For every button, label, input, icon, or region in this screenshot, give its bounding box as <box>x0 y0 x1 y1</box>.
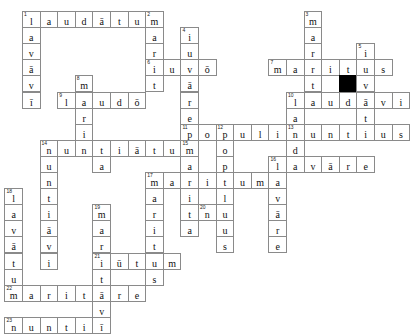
crossword-cell[interactable]: u <box>22 317 41 334</box>
crossword-cell[interactable]: i <box>180 188 199 205</box>
crossword-cell[interactable]: t <box>304 75 323 92</box>
crossword-cell[interactable]: i <box>145 220 164 237</box>
crossword-cell[interactable]: a <box>286 108 305 125</box>
crossword-cell[interactable]: u <box>163 140 182 157</box>
crossword-cell[interactable]: o <box>198 124 217 141</box>
crossword-cell[interactable]: 11p <box>180 124 199 141</box>
crossword-cell[interactable]: u <box>356 59 375 76</box>
crossword-cell[interactable]: u <box>145 253 164 270</box>
crossword-cell[interactable]: ā <box>321 156 340 173</box>
crossword-cell[interactable]: 16l <box>268 156 287 173</box>
crossword-cell[interactable]: v <box>268 188 287 205</box>
crossword-cell[interactable]: a <box>22 285 41 302</box>
crossword-cell[interactable]: u <box>304 124 323 141</box>
crossword-cell[interactable]: 14n <box>40 140 59 157</box>
crossword-cell[interactable]: a <box>4 204 23 221</box>
crossword-cell[interactable]: r <box>40 285 59 302</box>
crossword-cell[interactable]: r <box>180 172 199 189</box>
crossword-cell[interactable]: v <box>4 220 23 237</box>
crossword-cell[interactable]: v <box>40 236 59 253</box>
crossword-cell[interactable]: a <box>180 220 199 237</box>
crossword-cell[interactable]: i <box>268 124 287 141</box>
crossword-cell[interactable]: 22m <box>4 285 23 302</box>
crossword-cell[interactable]: t <box>145 236 164 253</box>
crossword-cell[interactable]: s <box>145 269 164 286</box>
crossword-cell[interactable]: a <box>304 92 323 109</box>
crossword-cell[interactable]: ā <box>92 11 111 28</box>
crossword-cell[interactable]: d <box>286 140 305 157</box>
crossword-cell[interactable]: a <box>92 220 111 237</box>
crossword-cell[interactable]: 4i <box>180 27 199 44</box>
crossword-cell[interactable]: a <box>145 188 164 205</box>
crossword-cell[interactable]: a <box>40 11 59 28</box>
crossword-cell[interactable]: i <box>198 172 217 189</box>
crossword-cell[interactable]: n <box>40 172 59 189</box>
crossword-cell[interactable]: a <box>163 172 182 189</box>
crossword-cell[interactable]: t <box>57 317 76 334</box>
crossword-cell[interactable]: r <box>110 285 129 302</box>
crossword-cell[interactable]: u <box>216 220 235 237</box>
crossword-cell[interactable]: t <box>145 75 164 92</box>
crossword-cell[interactable]: u <box>57 11 76 28</box>
crossword-cell[interactable]: v <box>22 43 41 60</box>
crossword-cell[interactable]: a <box>180 156 199 173</box>
crossword-cell[interactable]: ā <box>92 285 111 302</box>
crossword-cell[interactable]: r <box>339 156 358 173</box>
crossword-cell[interactable]: e <box>356 156 375 173</box>
crossword-cell[interactable]: 18l <box>4 188 23 205</box>
crossword-cell[interactable]: v <box>180 59 199 76</box>
crossword-cell[interactable]: 10l <box>286 92 305 109</box>
crossword-cell[interactable]: i <box>356 124 375 141</box>
crossword-cell[interactable]: 2m <box>145 11 164 28</box>
crossword-cell[interactable]: i <box>75 124 94 141</box>
crossword-cell[interactable]: r <box>304 59 323 76</box>
crossword-cell[interactable]: u <box>92 92 111 109</box>
crossword-cell[interactable]: s <box>392 124 411 141</box>
crossword-cell[interactable]: r <box>92 236 111 253</box>
crossword-cell[interactable]: ī <box>92 317 111 334</box>
crossword-cell[interactable]: i <box>57 285 76 302</box>
crossword-cell[interactable]: i <box>392 92 411 109</box>
crossword-cell[interactable]: ō <box>198 59 217 76</box>
crossword-cell[interactable]: a <box>268 172 287 189</box>
crossword-cell[interactable]: i <box>40 204 59 221</box>
crossword-cell[interactable]: s <box>374 59 393 76</box>
crossword-cell[interactable]: v <box>304 156 323 173</box>
crossword-cell[interactable]: a <box>286 156 305 173</box>
crossword-cell[interactable]: 7m <box>268 59 287 76</box>
crossword-cell[interactable]: t <box>339 124 358 141</box>
crossword-cell[interactable]: 13n <box>286 124 305 141</box>
crossword-cell[interactable]: t <box>40 188 59 205</box>
crossword-cell[interactable]: i <box>75 317 94 334</box>
crossword-cell[interactable]: 5i <box>356 43 375 60</box>
crossword-cell[interactable]: u <box>180 43 199 60</box>
crossword-cell[interactable]: m <box>163 253 182 270</box>
crossword-cell[interactable]: t <box>92 140 111 157</box>
crossword-cell[interactable]: t <box>75 285 94 302</box>
crossword-cell[interactable]: t <box>180 204 199 221</box>
crossword-cell[interactable]: 1l <box>22 11 41 28</box>
crossword-cell[interactable]: a <box>22 27 41 44</box>
crossword-cell[interactable]: 6i <box>145 59 164 76</box>
crossword-cell[interactable]: r <box>145 43 164 60</box>
crossword-cell[interactable]: ā <box>128 140 147 157</box>
crossword-cell[interactable]: p <box>216 156 235 173</box>
crossword-cell[interactable]: ū <box>110 253 129 270</box>
crossword-cell[interactable]: r <box>75 108 94 125</box>
crossword-cell[interactable]: m <box>251 172 270 189</box>
crossword-cell[interactable]: a <box>304 27 323 44</box>
crossword-cell[interactable]: a <box>145 27 164 44</box>
crossword-cell[interactable]: v <box>92 301 111 318</box>
crossword-cell[interactable]: e <box>128 285 147 302</box>
crossword-cell[interactable]: l <box>251 124 270 141</box>
crossword-cell[interactable]: u <box>233 124 252 141</box>
crossword-cell[interactable]: s <box>216 236 235 253</box>
crossword-cell[interactable]: a <box>92 156 111 173</box>
crossword-cell[interactable]: 9l <box>57 92 76 109</box>
crossword-cell[interactable]: o <box>216 140 235 157</box>
crossword-cell[interactable]: ā <box>40 220 59 237</box>
crossword-cell[interactable]: 8m <box>75 75 94 92</box>
crossword-cell[interactable]: ā <box>22 59 41 76</box>
crossword-cell[interactable]: ā <box>356 92 375 109</box>
